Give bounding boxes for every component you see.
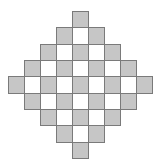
grid-cell-grey [72,142,89,159]
grid-cell-grey [24,60,41,77]
grid-cell-grey [72,109,89,126]
grid-cell-grey [136,76,153,94]
grid-cell-grey [88,60,105,77]
grid-cell-white [56,109,73,126]
grid-cell-grey [56,125,73,143]
grid-cell-grey [104,44,121,61]
grid-cell-grey [104,76,121,94]
grid-cell-white [40,93,57,110]
grid-cell-grey [88,27,105,45]
grid-cell-grey [88,93,105,110]
grid-cell-white [72,27,89,45]
grid-cell-white [88,76,105,94]
grid-cell-grey [8,76,25,94]
grid-cell-grey [40,76,57,94]
diamond-checkerboard [0,0,160,168]
grid-cell-white [24,76,41,94]
grid-cell-grey [40,44,57,61]
grid-cell-white [56,76,73,94]
grid-cell-grey [72,11,89,28]
grid-cell-white [88,109,105,126]
grid-cell-white [104,60,121,77]
grid-cell-grey [120,60,137,77]
grid-cell-grey [72,76,89,94]
grid-cell-white [104,93,121,110]
grid-cell-grey [24,93,41,110]
grid-cell-white [120,76,137,94]
grid-cell-grey [40,109,57,126]
grid-cell-white [72,125,89,143]
grid-cell-grey [56,27,73,45]
grid-cell-white [72,60,89,77]
grid-cell-white [72,93,89,110]
grid-cell-grey [56,60,73,77]
grid-cell-white [56,44,73,61]
grid-cell-grey [88,125,105,143]
grid-cell-grey [120,93,137,110]
grid-cell-grey [56,93,73,110]
grid-cell-white [88,44,105,61]
grid-cell-white [40,60,57,77]
grid-cell-grey [72,44,89,61]
grid-cell-grey [104,109,121,126]
